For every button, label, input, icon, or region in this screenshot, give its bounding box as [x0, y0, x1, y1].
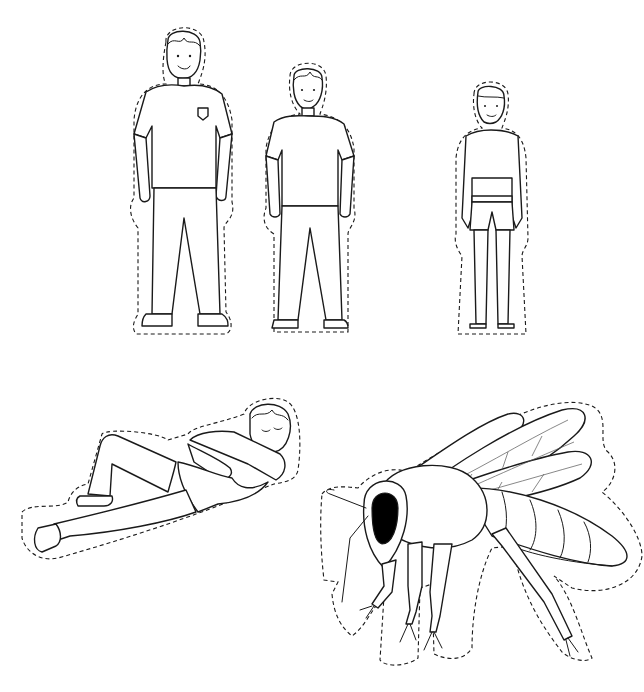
- tall-boy-figure: [128, 22, 238, 340]
- medium-boy-figure: [260, 58, 360, 338]
- cropped-header-text: [0, 0, 644, 5]
- bee-drawing: [312, 396, 644, 686]
- small-boy-drawing: [452, 78, 532, 340]
- lying-boy-figure: [18, 392, 308, 572]
- tall-boy-drawing: [128, 22, 238, 340]
- lying-boy-drawing: [18, 392, 308, 572]
- medium-boy-drawing: [260, 58, 360, 338]
- small-boy-figure: [452, 78, 532, 340]
- bee-figure: [312, 396, 644, 686]
